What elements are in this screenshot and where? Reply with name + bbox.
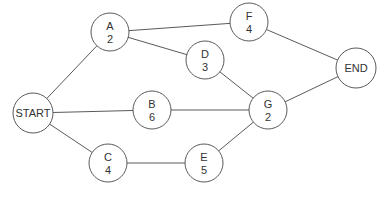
node-d: D3 (186, 41, 224, 79)
node-circle (89, 144, 127, 182)
node-circle (185, 144, 223, 182)
node-label: A (106, 20, 114, 32)
node-label: C (104, 151, 112, 163)
node-duration: 2 (265, 111, 271, 123)
node-duration: 5 (201, 164, 207, 176)
node-c: C4 (89, 144, 127, 182)
network-diagram: STARTA2B6C4D3E5F4G2END (0, 0, 383, 198)
node-circle (91, 13, 129, 51)
node-duration: 4 (105, 164, 111, 176)
node-circle (249, 91, 287, 129)
node-duration: 6 (149, 111, 155, 123)
node-circle (133, 91, 171, 129)
node-label: F (246, 10, 253, 22)
node-circle (186, 41, 224, 79)
edge-a-f (110, 22, 249, 32)
node-label: END (344, 62, 367, 74)
node-b: B6 (133, 91, 171, 129)
node-label: E (200, 151, 207, 163)
node-a: A2 (91, 13, 129, 51)
node-label: G (264, 98, 273, 110)
node-duration: 4 (246, 23, 252, 35)
node-circle (230, 3, 268, 41)
node-duration: 3 (202, 61, 208, 73)
node-duration: 2 (107, 33, 113, 45)
node-label: D (201, 48, 209, 60)
edges-layer (33, 22, 356, 163)
node-e: E5 (185, 144, 223, 182)
node-label: START (15, 107, 50, 119)
nodes-layer: STARTA2B6C4D3E5F4G2END (13, 3, 376, 182)
node-label: B (148, 98, 155, 110)
node-g: G2 (249, 91, 287, 129)
node-start: START (13, 93, 53, 133)
node-end: END (336, 48, 376, 88)
node-f: F4 (230, 3, 268, 41)
